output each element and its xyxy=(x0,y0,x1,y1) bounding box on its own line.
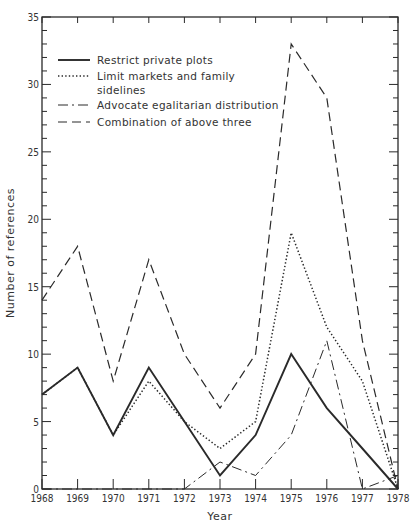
legend-label: Combination of above three xyxy=(97,116,252,128)
x-tick-label: 1972 xyxy=(173,493,196,504)
x-tick-label: 1975 xyxy=(280,493,303,504)
x-tick-label: 1976 xyxy=(315,493,338,504)
series-line-2 xyxy=(42,341,398,489)
y-axis: 05101520253035 xyxy=(28,12,398,495)
x-tick-label: 1969 xyxy=(66,493,89,504)
x-axis: 1968196919701971197219731974197519761977… xyxy=(31,17,410,504)
legend-label: Limit markets and family xyxy=(97,70,235,82)
x-tick-label: 1978 xyxy=(387,493,410,504)
x-tick-label: 1973 xyxy=(209,493,232,504)
line-chart: 05101520253035 1968196919701971197219731… xyxy=(0,0,411,528)
x-tick-label: 1971 xyxy=(137,493,160,504)
legend-label-cont: sidelines xyxy=(97,84,146,96)
y-tick-label: 20 xyxy=(28,214,40,225)
series-line-0 xyxy=(42,354,398,489)
legend-label: Restrict private plots xyxy=(97,54,213,66)
series-line-1 xyxy=(42,233,398,489)
y-tick-label: 25 xyxy=(28,147,39,158)
y-tick-label: 30 xyxy=(28,79,40,90)
y-tick-label: 15 xyxy=(28,282,39,293)
legend: Restrict private plotsLimit markets and … xyxy=(58,54,279,128)
x-tick-label: 1968 xyxy=(31,493,54,504)
plot-frame xyxy=(42,17,398,489)
x-tick-label: 1974 xyxy=(244,493,267,504)
y-tick-label: 10 xyxy=(28,349,40,360)
y-tick-label: 35 xyxy=(28,12,39,23)
x-axis-title: Year xyxy=(206,510,232,523)
legend-label: Advocate egalitarian distribution xyxy=(97,99,279,111)
x-tick-label: 1977 xyxy=(351,493,374,504)
x-tick-label: 1970 xyxy=(102,493,125,504)
y-tick-label: 5 xyxy=(33,417,39,428)
plot-border xyxy=(42,17,398,489)
y-axis-title: Number of references xyxy=(4,188,17,318)
